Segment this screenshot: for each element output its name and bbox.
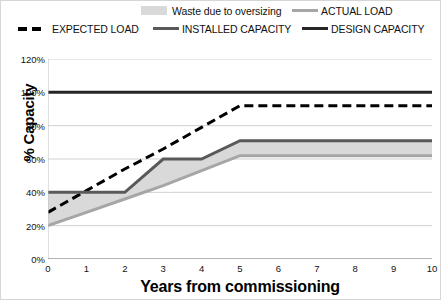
- legend-item-design-capacity: DESIGN CAPACITY: [302, 23, 424, 35]
- x-axis-tick-label: 10: [420, 263, 441, 274]
- plot-svg: [48, 59, 432, 259]
- x-axis-tick-label: 0: [36, 263, 60, 274]
- x-axis-tick-label: 1: [74, 263, 98, 274]
- chart-legend: Waste due to oversizing ACTUAL LOAD EXPE…: [1, 1, 441, 39]
- legend-label-waste: Waste due to oversizing: [172, 5, 281, 17]
- legend-row-2: EXPECTED LOAD INSTALLED CAPACITY DESIGN …: [1, 19, 441, 38]
- x-axis-tick-label: 9: [382, 263, 406, 274]
- x-axis-tick-labels: 012345678910: [48, 263, 432, 279]
- legend-row-1: Waste due to oversizing ACTUAL LOAD: [1, 1, 441, 20]
- y-axis-tick-label: 20%: [11, 220, 45, 231]
- legend-label-design-capacity: DESIGN CAPACITY: [331, 23, 424, 35]
- y-axis-title: % Capacity: [20, 48, 37, 198]
- series-line-actual-load: [48, 156, 432, 226]
- chart-container: Waste due to oversizing ACTUAL LOAD EXPE…: [0, 0, 441, 300]
- waste-band-swatch-icon: [141, 6, 167, 15]
- x-axis-title: Years from commissioning: [48, 278, 432, 296]
- legend-label-installed-capacity: INSTALLED CAPACITY: [182, 23, 291, 35]
- legend-item-actual-load: ACTUAL LOAD: [292, 5, 392, 17]
- installed-capacity-line-swatch-icon: [153, 27, 179, 30]
- legend-label-expected-load: EXPECTED LOAD: [52, 23, 139, 35]
- x-axis-tick-label: 3: [151, 263, 175, 274]
- design-capacity-line-swatch-icon: [302, 27, 328, 30]
- legend-item-waste-due-to-oversizing: Waste due to oversizing: [141, 5, 281, 17]
- waste-due-to-oversizing-band: [48, 141, 432, 226]
- legend-label-actual-load: ACTUAL LOAD: [321, 5, 392, 17]
- plot-area: [48, 59, 432, 259]
- x-axis-tick-label: 6: [266, 263, 290, 274]
- x-axis-tick-label: 8: [343, 263, 367, 274]
- x-axis-tick-label: 4: [190, 263, 214, 274]
- x-axis-tick-label: 7: [305, 263, 329, 274]
- legend-item-installed-capacity: INSTALLED CAPACITY: [153, 23, 291, 35]
- x-axis-tick-label: 2: [113, 263, 137, 274]
- actual-load-line-swatch-icon: [292, 9, 318, 12]
- x-axis-tick-label: 5: [228, 263, 252, 274]
